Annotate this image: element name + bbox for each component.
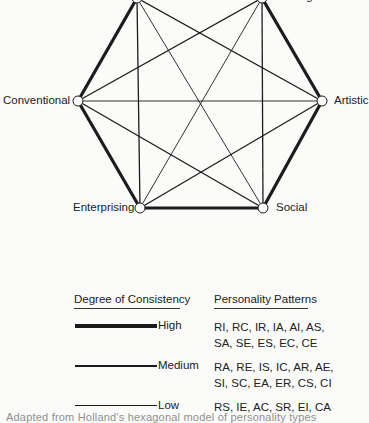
legend-patterns-medium: RA, RE, IS, IC, AR, AE, SI, SC, EA, ER, … xyxy=(214,359,354,391)
patterns-medium-line1: RA, RE, IS, IC, AR, AE, xyxy=(214,359,354,375)
legend-patterns-high: RI, RC, IR, IA, AI, AS, SA, SE, ES, EC, … xyxy=(214,319,354,351)
legend-header-consistency: Degree of Consistency xyxy=(74,293,180,309)
legend-level-high: High xyxy=(158,319,182,331)
legend-line-high xyxy=(75,324,157,328)
legend-line-low xyxy=(75,405,157,406)
patterns-high-line2: SA, SE, ES, EC, CE xyxy=(214,335,354,351)
patterns-high-line1: RI, RC, IR, IA, AI, AS, xyxy=(214,319,354,335)
legend-header-patterns: Personality Patterns xyxy=(214,293,308,309)
source-caption: Adapted from Holland's hexagonal model o… xyxy=(6,411,316,423)
legend-level-medium: Medium xyxy=(158,359,199,371)
patterns-medium-line2: SI, SC, EA, ER, CS, CI xyxy=(214,375,354,391)
legend-level-low: Low xyxy=(158,399,179,411)
legend-line-medium xyxy=(75,365,157,367)
